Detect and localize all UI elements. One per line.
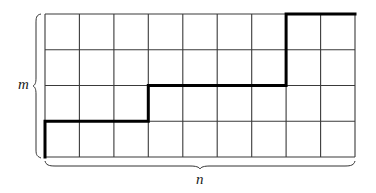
lattice-grid-diagram — [0, 0, 376, 193]
columns-label-n: n — [196, 172, 204, 187]
left-brace — [33, 14, 41, 158]
bottom-brace — [45, 161, 355, 169]
rows-label-m: m — [18, 77, 29, 92]
